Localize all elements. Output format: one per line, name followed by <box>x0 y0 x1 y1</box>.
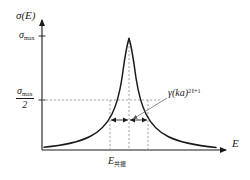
x-axis-label-text: E <box>232 137 239 149</box>
resonance-energy-label: E共振 <box>108 156 126 167</box>
sigma-max-label: σmax <box>19 30 35 41</box>
y-axis-label: σ(E) <box>16 10 35 21</box>
width-annotation-label: γ(ka)2ℓ+1 <box>168 88 201 98</box>
resonance-curve-figure: σ(E) σmax σmax 2 E E共振 γ(ka)2ℓ+1 <box>0 0 250 180</box>
y-axis-label-text: σ(E) <box>16 9 35 21</box>
annotation-leader-line <box>133 98 167 119</box>
resonance-energy-subscript: 共振 <box>114 160 126 167</box>
sigma-half-numerator-subscript: max <box>22 90 33 97</box>
annotation-exponent: 2ℓ+1 <box>188 87 201 94</box>
x-axis-label: E <box>232 138 239 149</box>
sigma-half-denominator: 2 <box>16 99 34 110</box>
plot-canvas <box>0 0 250 180</box>
sigma-half-numerator: σmax <box>16 86 34 99</box>
sigma-half-max-label: σmax 2 <box>16 86 34 110</box>
sigma-max-subscript: max <box>24 34 35 41</box>
annotation-base: (ka) <box>172 87 188 98</box>
